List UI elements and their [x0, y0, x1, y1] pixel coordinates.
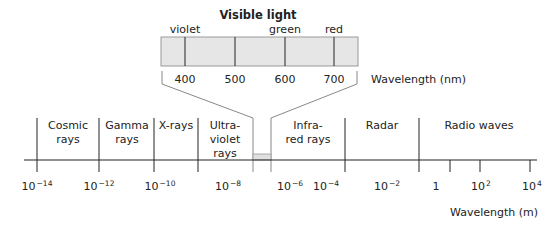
m-tick-1e-14: 10−14 [22, 180, 53, 193]
color-label-green: green [269, 23, 301, 36]
band-gamma-rays: Gamma rays [105, 119, 148, 147]
m-tick-1: 1 [433, 180, 440, 193]
m-tick-1e4: 104 [522, 180, 542, 193]
visible-band-marker [253, 154, 271, 160]
band-radio-waves: Radio waves [444, 119, 513, 133]
visible-light-title: Visible light [219, 9, 296, 22]
nm-tick-400: 400 [175, 73, 196, 86]
m-tick-1e-12: 10−12 [84, 180, 115, 193]
band-radar: Radar [366, 119, 398, 133]
band-x-rays: X-rays [159, 119, 193, 133]
m-axis-label: Wavelength (m) [450, 206, 538, 219]
color-label-violet: violet [170, 23, 200, 36]
m-tick-1e-8: 10−8 [215, 180, 241, 193]
color-label-red: red [325, 23, 343, 36]
band-cosmic-rays: Cosmic rays [48, 119, 88, 147]
nm-tick-500: 500 [225, 73, 246, 86]
band-infrared-rays: Infra- red rays [285, 119, 330, 147]
m-tick-1e-10: 10−10 [145, 180, 176, 193]
visible-light-box [161, 37, 358, 66]
band-ultraviolet-rays: Ultra- violet rays [210, 119, 241, 161]
nm-tick-700: 700 [324, 73, 345, 86]
nm-axis-label: Wavelength (nm) [371, 73, 466, 86]
m-tick-1e-6: 10−6 [277, 180, 303, 193]
m-tick-1e-4: 10−4 [313, 180, 339, 193]
nm-tick-600: 600 [275, 73, 296, 86]
m-tick-1e2: 102 [471, 180, 491, 193]
m-tick-1e-2: 10−2 [374, 180, 400, 193]
electromagnetic-spectrum-diagram: Visible light violet green red 400 500 6… [0, 0, 557, 227]
